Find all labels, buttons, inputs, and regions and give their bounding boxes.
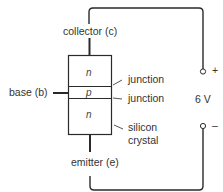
junction-upper-label: junction [128,74,164,85]
emitter-label: emitter (e) [71,157,119,168]
collector-wire [89,8,203,69]
layer-middle-symbol: p [86,87,92,98]
leader-silicon [114,125,123,129]
layer-top-symbol: n [86,67,92,78]
junction-lower-label: junction [128,93,164,104]
leader-junction-upper [113,80,122,85]
positive-terminal [200,69,205,74]
voltage-label: 6 V [195,94,211,105]
base-label: base (b) [9,87,48,98]
leader-junction-lower [113,98,122,99]
plus-sign: + [212,65,218,76]
collector-label: collector (c) [63,26,117,37]
silicon-label-line2: crystal [128,135,158,146]
negative-terminal [200,123,205,128]
minus-sign: – [212,120,218,131]
layer-bottom-symbol: n [86,109,92,120]
silicon-label-line1: silicon [128,122,157,133]
